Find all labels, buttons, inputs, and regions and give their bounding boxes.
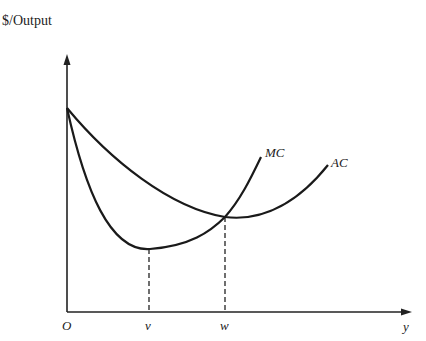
y-axis-label: $/Output — [2, 13, 52, 29]
ac-label: AC — [331, 155, 348, 171]
cost-curve-diagram: $/Output O v w y MC AC — [0, 0, 426, 341]
y-axis-arrow-icon — [64, 54, 71, 65]
mc-curve — [67, 108, 261, 249]
x-tick-v: v — [145, 318, 151, 334]
ac-curve — [67, 108, 328, 218]
mc-label: MC — [265, 145, 285, 161]
x-axis-label: y — [403, 319, 409, 335]
origin-label: O — [62, 318, 71, 334]
x-tick-w: w — [220, 318, 229, 334]
diagram-canvas — [0, 0, 426, 341]
x-axis-arrow-icon — [401, 309, 412, 316]
